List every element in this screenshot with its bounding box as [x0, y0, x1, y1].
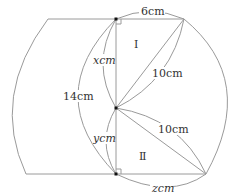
- upper-hypotenuse: [116, 19, 184, 108]
- right-outer-arc: [116, 12, 227, 188]
- label-total-height: 14cm: [63, 90, 94, 103]
- label-top-segment: 6cm: [141, 5, 165, 18]
- point-middle: [115, 107, 118, 110]
- label-x-segment: xcm: [93, 54, 116, 67]
- label-region-lower: Ⅱ: [139, 150, 146, 163]
- label-bottom-segment: zcm: [151, 182, 174, 195]
- label-hyp-lower: 10cm: [158, 123, 189, 136]
- lower-hypotenuse: [116, 108, 206, 174]
- label-region-upper: Ⅰ: [134, 38, 138, 51]
- point-bottom: [115, 173, 118, 176]
- left-outer-arc: [12, 19, 48, 174]
- geometry-diagram: 6cm xcm 14cm 10cm ycm 10cm zcm Ⅰ Ⅱ: [0, 0, 234, 196]
- point-top: [115, 18, 118, 21]
- label-hyp-upper: 10cm: [152, 67, 183, 80]
- label-y-segment: ycm: [92, 132, 116, 145]
